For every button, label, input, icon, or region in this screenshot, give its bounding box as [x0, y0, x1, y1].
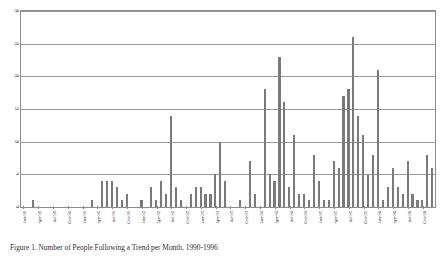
bar-series [21, 11, 435, 207]
bar [298, 194, 300, 207]
bar [204, 194, 206, 207]
bar [175, 187, 177, 207]
x-tick-label: Apr-95 [334, 211, 339, 224]
bar [32, 200, 34, 207]
bar [333, 161, 335, 207]
x-tick-mark [408, 206, 409, 209]
bar [362, 135, 364, 207]
bar [377, 70, 379, 207]
x-tick-mark [53, 206, 54, 209]
bar [397, 187, 399, 207]
bar [239, 200, 241, 207]
bar [264, 89, 266, 207]
x-tick-mark [275, 206, 276, 209]
bar [318, 181, 320, 207]
x-tick-label: Jan-92 [142, 211, 147, 223]
x-tick-mark [378, 206, 379, 209]
bar [367, 174, 369, 207]
y-tick-mark-15 [16, 109, 19, 110]
x-tick-mark [23, 206, 24, 209]
x-axis: Jan-90Apr-90Jul-90Oct-90Jan-91Apr-91Jul-… [21, 209, 435, 243]
x-tick-mark [83, 206, 84, 209]
bar [249, 161, 251, 207]
bar [372, 155, 374, 207]
bar [91, 200, 93, 207]
x-tick-mark [319, 206, 320, 209]
bar-chart: 051015202530 Jan-90Apr-90Jul-90Oct-90Jan… [0, 0, 445, 215]
bar [416, 200, 418, 207]
x-tick-label: Apr-96 [393, 211, 398, 224]
x-tick-mark [68, 206, 69, 209]
bar [165, 194, 167, 207]
bar [160, 181, 162, 207]
bar [195, 187, 197, 207]
bar [431, 168, 433, 207]
bar [283, 102, 285, 207]
x-tick-mark [349, 206, 350, 209]
x-tick-label: Oct-94 [304, 211, 309, 224]
x-tick-mark [364, 206, 365, 209]
x-tick-mark [142, 206, 143, 209]
x-tick-mark [171, 206, 172, 209]
x-tick-label: Jan-96 [378, 211, 383, 223]
x-tick-label: Jul-94 [290, 211, 295, 222]
bar [170, 116, 172, 207]
bar [200, 187, 202, 207]
bar [106, 181, 108, 207]
figure-caption: Figure 1. Number of People Following a T… [10, 243, 440, 252]
y-axis: 051015202530 [0, 10, 19, 208]
y-tick-mark-0 [16, 207, 19, 208]
bar [357, 116, 359, 207]
bar [407, 161, 409, 207]
bar [273, 181, 275, 207]
x-tick-label: Apr-91 [97, 211, 102, 224]
bar [288, 187, 290, 207]
x-tick-mark [157, 206, 158, 209]
bar [382, 200, 384, 207]
bar [209, 194, 211, 207]
bar [313, 155, 315, 207]
bar [150, 187, 152, 207]
x-tick-label: Jul-90 [53, 211, 58, 222]
x-tick-label: Jan-93 [201, 211, 206, 223]
x-tick-label: Jan-95 [319, 211, 324, 223]
bar [402, 194, 404, 207]
bar [121, 200, 123, 207]
x-tick-label: Jan-90 [23, 211, 28, 223]
x-tick-mark [216, 206, 217, 209]
x-tick-mark [334, 206, 335, 209]
bar [219, 142, 221, 207]
bar [180, 200, 182, 207]
bar [426, 155, 428, 207]
x-tick-mark [423, 206, 424, 209]
x-tick-mark [127, 206, 128, 209]
x-tick-label: Oct-91 [127, 211, 132, 224]
x-tick-mark [304, 206, 305, 209]
x-tick-label: Jul-95 [349, 211, 354, 222]
bar [352, 37, 354, 207]
x-tick-label: Jul-96 [408, 211, 413, 222]
bar [278, 57, 280, 207]
bar [111, 181, 113, 207]
bar [254, 194, 256, 207]
x-tick-mark [112, 206, 113, 209]
x-tick-mark [201, 206, 202, 209]
x-tick-label: Oct-92 [186, 211, 191, 224]
figure: 051015202530 Jan-90Apr-90Jul-90Oct-90Jan… [0, 0, 445, 257]
x-tick-label: Apr-90 [38, 211, 43, 224]
bar [116, 187, 118, 207]
x-tick-label: Oct-96 [423, 211, 428, 224]
bar [411, 194, 413, 207]
x-tick-label: Jan-94 [260, 211, 265, 223]
x-tick-mark [290, 206, 291, 209]
bar [338, 168, 340, 207]
x-tick-label: Oct-90 [68, 211, 73, 224]
bar [101, 181, 103, 207]
x-tick-label: Apr-93 [216, 211, 221, 224]
y-tick-mark-20 [16, 76, 19, 77]
x-tick-label: Jul-93 [230, 211, 235, 222]
bar [308, 200, 310, 207]
bar [347, 89, 349, 207]
bar [342, 96, 344, 207]
bar [323, 200, 325, 207]
